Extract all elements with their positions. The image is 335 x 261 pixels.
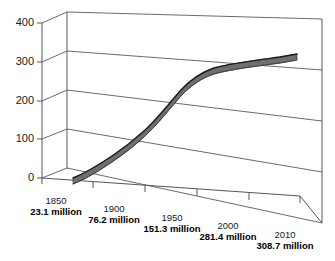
y-tick-marks: [37, 23, 42, 178]
x-label-value-1850: 23.1 million: [30, 206, 82, 217]
x-label-year-1900: 1900: [103, 203, 124, 214]
chart-container: 0 100 200 300 400 1850 23.1 mill: [0, 0, 335, 261]
x-label-year-1850: 1850: [45, 195, 66, 206]
x-label-year-2000: 2000: [217, 220, 238, 231]
x-label-value-1900: 76.2 million: [88, 214, 140, 225]
x-label-value-1950: 151.3 million: [143, 223, 200, 234]
x-label-value-2010: 308.7 million: [256, 240, 313, 251]
series-line-top: [73, 54, 297, 178]
gridline-100: [42, 129, 322, 172]
data-series-population: [73, 54, 297, 184]
series-band-side: [73, 54, 297, 184]
y-tick-label-200: 200: [16, 94, 34, 106]
population-line-chart: 0 100 200 300 400 1850 23.1 mill: [0, 0, 335, 261]
x-label-year-1950: 1950: [161, 212, 182, 223]
series-line-bottom: [73, 60, 297, 184]
y-tick-label-100: 100: [16, 132, 34, 144]
y-tick-label-0: 0: [28, 171, 34, 183]
x-label-year-2010: 2010: [274, 229, 295, 240]
x-tick-labels: 1850 23.1 million 1900 76.2 million 1950…: [30, 195, 314, 251]
gridlines-group: [42, 12, 322, 223]
y-tick-labels: 0 100 200 300 400: [16, 16, 34, 183]
gridline-400: [42, 12, 322, 23]
y-tick-label-300: 300: [16, 55, 34, 67]
y-tick-label-400: 400: [16, 16, 34, 28]
axes-group: [42, 12, 322, 223]
x-label-value-2000: 281.4 million: [199, 231, 256, 242]
